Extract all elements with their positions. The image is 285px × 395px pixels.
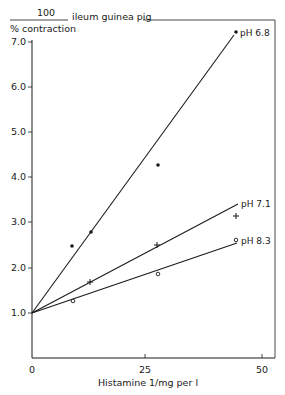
y-tick-label: 7.0 <box>11 36 26 47</box>
x-tick-label: 25 <box>139 364 151 375</box>
data-point <box>71 299 75 303</box>
data-point <box>70 244 74 248</box>
series-label-ph83: pH 8.3 <box>241 236 271 246</box>
x-ticks <box>145 354 262 358</box>
x-axis-title: Histamine 1/mg per l <box>98 377 198 388</box>
chart-title: ileum guinea pig <box>72 11 152 22</box>
x-tick-label: 50 <box>256 364 268 375</box>
x-tick-label: 0 <box>29 364 35 375</box>
y-ticks <box>28 42 32 313</box>
series-label-ph68: pH 6.8 <box>240 28 270 38</box>
data-point <box>154 242 160 248</box>
y-tick-label: 6.0 <box>11 81 26 92</box>
header-number: 100 <box>37 7 55 18</box>
fit-line-ph83 <box>32 243 237 313</box>
data-point <box>156 163 160 167</box>
fit-line-ph68 <box>32 35 234 313</box>
chart: 100 ileum guinea pig % contraction 7.0 6… <box>0 0 285 395</box>
y-tick-label: 3.0 <box>11 216 26 227</box>
data-point <box>234 30 238 34</box>
series-ph71-points <box>87 213 239 285</box>
y-tick-label: 4.0 <box>11 171 26 182</box>
fit-line-ph71 <box>32 204 238 313</box>
y-tick-label: 5.0 <box>11 126 26 137</box>
y-tick-label: 2.0 <box>11 262 26 273</box>
data-point <box>233 213 239 219</box>
data-point <box>234 238 238 242</box>
data-point <box>89 230 93 234</box>
series-label-ph71: pH 7.1 <box>241 199 271 209</box>
data-point <box>87 279 93 285</box>
data-point <box>156 272 160 276</box>
y-axis-title: % contraction <box>10 23 76 34</box>
y-tick-label: 1.0 <box>11 307 26 318</box>
series-ph68-points <box>70 30 238 248</box>
chart-canvas: 100 ileum guinea pig % contraction 7.0 6… <box>0 0 285 395</box>
